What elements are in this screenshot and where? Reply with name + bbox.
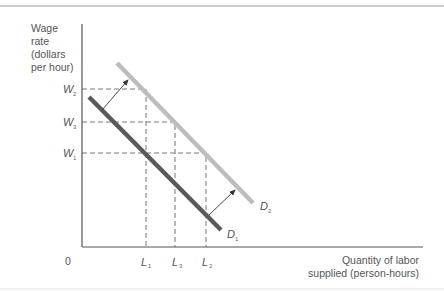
x-axis-title: Quantity of labor supplied (person-hours… (308, 254, 419, 279)
dashed-guides (82, 89, 206, 247)
d2-label: D 2 (260, 200, 272, 214)
x-tick-l1: L 1 (141, 256, 152, 269)
d2-curve (117, 63, 253, 203)
svg-text:2: 2 (209, 263, 213, 269)
shift-arrow-lower (209, 190, 235, 215)
y-tick-w3: W 3 (63, 116, 77, 130)
labor-demand-chart: Wage rate (dollars per hour) W 2 W 3 W 1… (0, 0, 444, 291)
svg-text:per hour): per hour) (31, 61, 74, 73)
svg-text:Quantity of labor: Quantity of labor (342, 254, 420, 266)
svg-text:L: L (141, 256, 147, 268)
d1-label: D 1 (227, 228, 239, 242)
x-tick-l3: L 3 (172, 256, 183, 269)
origin-label: 0 (65, 255, 71, 267)
svg-text:rate: rate (31, 35, 49, 47)
y-tick-w1: W 1 (63, 147, 77, 161)
guide-w3-l3 (82, 122, 175, 247)
svg-text:2: 2 (73, 91, 77, 97)
svg-text:supplied (person-hours): supplied (person-hours) (308, 267, 419, 279)
svg-text:1: 1 (148, 263, 152, 269)
d1-curve (89, 97, 221, 230)
svg-text:3: 3 (73, 124, 77, 130)
svg-text:1: 1 (235, 236, 239, 242)
svg-text:1: 1 (73, 155, 77, 161)
y-axis-title: Wage rate (dollars per hour) (31, 22, 74, 73)
guide-w1-l2 (82, 153, 206, 247)
y-tick-w2: W 2 (63, 83, 77, 97)
svg-text:3: 3 (179, 263, 183, 269)
svg-text:D: D (260, 200, 268, 212)
svg-text:L: L (202, 256, 208, 268)
shift-arrow-upper (102, 80, 128, 110)
svg-text:2: 2 (268, 208, 272, 214)
svg-text:Wage: Wage (31, 22, 58, 34)
x-tick-l2: L 2 (202, 256, 213, 269)
guide-w2-l1 (82, 89, 146, 247)
svg-text:(dollars: (dollars (31, 48, 65, 60)
svg-text:D: D (227, 228, 235, 240)
svg-text:L: L (172, 256, 178, 268)
